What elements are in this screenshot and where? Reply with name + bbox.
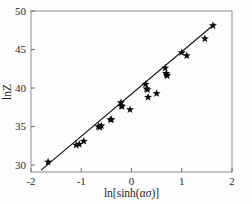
x-tick-label: 2 — [229, 175, 235, 187]
x-axis-title: ln[sinh(ασ)] — [104, 187, 159, 200]
x-tick-label: 1 — [179, 175, 185, 187]
figure-container: -2-1012 3035404550 ln[sinh(ασ)] lnZ — [0, 0, 252, 204]
y-tick-label: 40 — [15, 82, 27, 94]
y-tick-label: 50 — [15, 5, 27, 17]
y-tick-label: 30 — [15, 159, 27, 171]
scatter-plot: -2-1012 3035404550 ln[sinh(ασ)] lnZ — [0, 0, 252, 204]
y-tick-label: 45 — [15, 43, 27, 55]
y-tick-label: 35 — [15, 120, 27, 132]
x-tick-label: 0 — [129, 175, 135, 187]
y-axis-title: lnZ — [1, 84, 13, 100]
x-tick-label: -1 — [77, 175, 86, 187]
x-tick-label: -2 — [26, 175, 35, 187]
plot-background — [0, 0, 252, 204]
